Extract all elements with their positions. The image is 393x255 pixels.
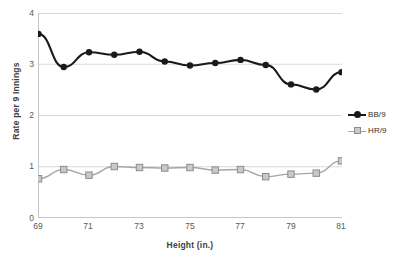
x-tick-label-77: 77 [227, 222, 253, 231]
data-point-circle[interactable] [237, 57, 243, 63]
data-point-circle[interactable] [212, 60, 218, 66]
x-axis-title: Height (in.) [38, 240, 342, 250]
x-tick-label-71: 71 [75, 222, 101, 231]
x-tick-label-69: 69 [25, 222, 51, 231]
series-layer [38, 31, 342, 182]
legend-marker-square-icon [348, 125, 366, 137]
data-point-square[interactable] [86, 172, 92, 178]
x-tick-label-73: 73 [126, 222, 152, 231]
x-tick-label-81: 81 [328, 222, 354, 231]
data-point-circle[interactable] [38, 31, 42, 37]
data-point-square[interactable] [136, 164, 142, 170]
series-line [39, 34, 342, 90]
data-point-circle[interactable] [162, 58, 168, 64]
chart-legend: BB/9 HR/9 [348, 107, 393, 139]
data-point-square[interactable] [338, 158, 342, 164]
data-point-square[interactable] [61, 166, 67, 172]
data-point-circle[interactable] [338, 69, 342, 75]
y-tick-label-4: 4 [20, 9, 34, 18]
data-point-circle[interactable] [86, 49, 92, 55]
data-point-circle[interactable] [313, 86, 319, 92]
data-point-square[interactable] [237, 166, 243, 172]
data-point-circle[interactable] [61, 64, 67, 70]
y-tick-label-2: 2 [20, 111, 34, 120]
data-point-square[interactable] [263, 174, 269, 180]
data-point-circle[interactable] [263, 62, 269, 68]
x-tick-label-75: 75 [177, 222, 203, 231]
legend-marker-circle-icon [348, 109, 366, 121]
gridlines [38, 14, 342, 167]
y-axis-title: Rate per 9 Innings [11, 41, 21, 161]
data-point-circle[interactable] [111, 52, 117, 58]
data-point-square[interactable] [162, 165, 168, 171]
legend-label-bb9: BB/9 [368, 111, 386, 119]
line-chart: 4 3 2 1 0 Rate per 9 Innings [0, 0, 393, 255]
plot-area [38, 13, 342, 218]
data-point-square[interactable] [38, 176, 42, 182]
data-point-circle[interactable] [136, 49, 142, 55]
data-point-square[interactable] [111, 163, 117, 169]
legend-item-hr9[interactable]: HR/9 [348, 123, 393, 139]
series-bb-9 [38, 31, 342, 93]
y-tick-label-3: 3 [20, 60, 34, 69]
series-hr-9 [38, 158, 342, 182]
x-axis-tick-labels: 69 71 73 75 77 79 81 [0, 222, 393, 236]
data-point-circle[interactable] [187, 62, 193, 68]
legend-item-bb9[interactable]: BB/9 [348, 107, 393, 123]
data-point-square[interactable] [212, 167, 218, 173]
data-point-square[interactable] [288, 171, 294, 177]
data-point-square[interactable] [187, 164, 193, 170]
plot-svg [38, 13, 342, 218]
data-point-circle[interactable] [288, 81, 294, 87]
data-point-square[interactable] [313, 170, 319, 176]
x-tick-label-79: 79 [278, 222, 304, 231]
legend-label-hr9: HR/9 [368, 127, 387, 135]
y-tick-label-1: 1 [20, 162, 34, 171]
